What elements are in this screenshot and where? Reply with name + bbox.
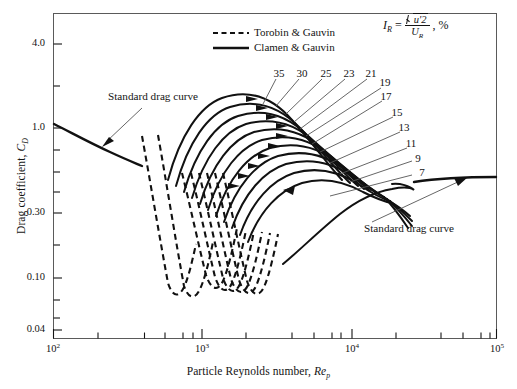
curve-label-23: 23 (339, 67, 359, 79)
curve-label-13: 13 (394, 121, 414, 133)
turbulence-intensity-formula: IR = u'2 UR , % (383, 14, 449, 38)
formula-denominator-text: U (411, 26, 419, 37)
legend-label-torobin-gauvin: Torobin & Gauvin (254, 26, 335, 38)
curve-label-30: 30 (292, 67, 312, 79)
xtick-base: 10 (345, 343, 356, 354)
curve-label-11: 11 (401, 137, 421, 149)
xtick-label-1e3: 103 (179, 343, 225, 354)
xtick-exponent: 2 (56, 342, 60, 350)
curve-label-35: 35 (269, 67, 289, 79)
curve-label-9: 9 (408, 152, 428, 164)
x-axis-title-subscript: p (326, 371, 330, 380)
figure-container: 4.0 1.0 0.30 0.10 0.04 102 103 104 105 P… (0, 0, 517, 389)
drag-coefficient-chart (0, 0, 517, 389)
ytick-label-0-04: 0.04 (3, 323, 45, 334)
xtick-base: 10 (490, 343, 501, 354)
formula-lhs-subscript: R (387, 25, 392, 34)
formula-denominator-subscript: R (419, 32, 423, 40)
formula-denominator: UR (405, 25, 430, 37)
xtick-exponent: 4 (355, 342, 359, 350)
xtick-base: 10 (195, 343, 206, 354)
formula-numerator-text: u'2 (413, 13, 428, 25)
xtick-exponent: 5 (500, 342, 504, 350)
radical-icon: u'2 (406, 13, 428, 25)
xtick-exponent: 3 (205, 342, 209, 350)
xtick-label-1e2: 102 (30, 343, 76, 354)
ytick-label-4-0: 4.0 (3, 37, 45, 48)
formula-numerator: u'2 (405, 13, 430, 25)
xtick-base: 10 (46, 343, 57, 354)
curve-label-7: 7 (412, 166, 432, 178)
formula-suffix: , % (433, 18, 449, 32)
formula-equals: = (395, 18, 402, 32)
x-axis-title-text: Particle Reynolds number, (187, 365, 311, 377)
curve-label-15: 15 (387, 106, 407, 118)
xtick-label-1e5: 105 (474, 343, 517, 354)
y-axis-title-symbol: C (15, 144, 27, 152)
formula-fraction: u'2 UR (405, 13, 430, 37)
x-axis-title-symbol: Re (314, 365, 326, 377)
xtick-label-1e4: 104 (329, 343, 375, 354)
curve-label-19: 19 (375, 76, 395, 88)
legend-label-clamen-gauvin: Clamen & Gauvin (254, 41, 335, 53)
y-axis-title-text: Drag coefficient, (15, 155, 27, 234)
curve-label-25: 25 (316, 67, 336, 79)
y-axis-title-subscript: D (21, 138, 30, 144)
curve-label-17: 17 (376, 90, 396, 102)
x-axis-title: Particle Reynolds number, Rep (0, 365, 517, 377)
y-axis-title: Drag coefficient, CD (15, 86, 27, 286)
annotation-standard-drag-curve-left: Standard drag curve (108, 90, 198, 102)
annotation-standard-drag-curve-right: Standard drag curve (364, 222, 454, 234)
